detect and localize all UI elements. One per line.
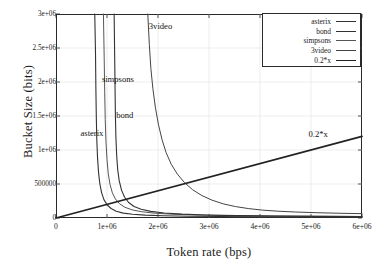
- y-tick-label: 500000: [4, 180, 56, 188]
- legend-item-bond[interactable]: bond: [266, 27, 356, 37]
- y-tick-label: 1.5e+06: [4, 112, 56, 120]
- legend-line-swatch: [336, 50, 356, 51]
- legend-line-swatch: [336, 60, 356, 61]
- legend-line-swatch: [336, 31, 356, 32]
- curve-label-0-2-x: 0.2*x: [308, 129, 327, 139]
- x-axis-title: Token rate (bps): [56, 245, 362, 260]
- curve-label-bond: bond: [116, 110, 133, 120]
- legend-item-3video[interactable]: 3video: [266, 46, 356, 56]
- legend-label: 3video: [311, 46, 336, 55]
- y-tick-label: 2.5e+06: [4, 44, 56, 52]
- legend-label: 0.2*x: [314, 56, 336, 65]
- legend-line-swatch: [336, 21, 356, 22]
- legend-label: simpsons: [303, 36, 336, 45]
- legend-item-asterix[interactable]: asterix: [266, 17, 356, 27]
- curve-label-asterix: asterix: [80, 128, 103, 138]
- y-tick-label: 1e+06: [4, 146, 56, 154]
- y-tick-label: 0: [4, 214, 56, 222]
- legend-label: asterix: [311, 17, 336, 26]
- y-tick-label: 2e+06: [4, 78, 56, 86]
- curve-label-simpsons: simpsons: [102, 74, 134, 84]
- legend-line-swatch: [336, 40, 356, 41]
- x-tick-label: 6e+06: [332, 222, 380, 231]
- legend: asterixbondsimpsons3video0.2*x: [262, 13, 361, 67]
- chart-root: Bucket Size (bits) Token rate (bps) 0500…: [0, 0, 380, 270]
- y-tick-label: 3e+06: [4, 10, 56, 18]
- legend-item-0-2-x[interactable]: 0.2*x: [266, 55, 356, 65]
- curve-label-3video: 3video: [149, 21, 172, 31]
- legend-item-simpsons[interactable]: simpsons: [266, 36, 356, 46]
- legend-label: bond: [316, 27, 336, 36]
